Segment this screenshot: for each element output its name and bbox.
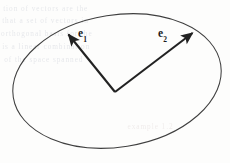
vector-e1-arrow [69,35,116,93]
vector-label-e1-subscript: 1 [83,35,87,44]
vector-label-e2-subscript: 2 [163,35,167,44]
vector-label-e2: e2 [158,28,167,42]
vector-e2-arrow [115,33,193,92]
vector-label-e1: e1 [78,28,87,42]
figure-container: tion of vectors are the that a set of ve… [0,0,230,163]
figure-line-art [0,0,230,163]
ellipse-outline [3,0,230,163]
